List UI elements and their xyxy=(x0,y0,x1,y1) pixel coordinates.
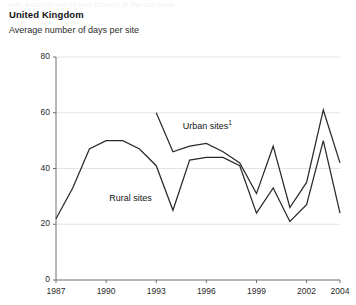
chart-figure: with a partial line of text clipped at t… xyxy=(0,0,356,305)
y-tick-label: 20 xyxy=(28,219,50,228)
x-tick-label: 2004 xyxy=(323,286,356,296)
series-label-urban: Urban sites1 xyxy=(183,121,232,131)
series-line-rural-sites xyxy=(56,141,340,222)
plot-svg xyxy=(0,0,356,305)
x-tick-label: 1999 xyxy=(239,286,273,296)
plot-area xyxy=(0,0,356,305)
y-tick-label: 60 xyxy=(28,108,50,117)
y-tick-label: 40 xyxy=(28,164,50,173)
series-label-rural: Rural sites xyxy=(109,193,152,203)
x-tick-label: 1993 xyxy=(139,286,173,296)
y-tick-label: 80 xyxy=(28,52,50,61)
footnote-marker: 1 xyxy=(228,119,232,126)
series-label-urban-text: Urban sites xyxy=(183,121,229,131)
x-tick-label: 1990 xyxy=(89,286,123,296)
x-tick-label: 2002 xyxy=(290,286,324,296)
y-tick-label: 0 xyxy=(28,275,50,284)
x-tick-label: 1996 xyxy=(189,286,223,296)
x-tick-label: 1987 xyxy=(39,286,73,296)
